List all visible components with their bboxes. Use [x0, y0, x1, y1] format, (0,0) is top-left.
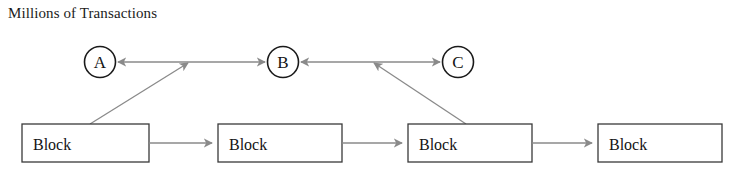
diagram-canvas: A B C Block Block	[0, 0, 729, 176]
block-3: Block	[408, 124, 532, 162]
block-2-label: Block	[229, 136, 267, 153]
node-a: A	[85, 47, 116, 78]
block-chain-row: Block Block Block Block	[22, 124, 722, 162]
block-3-label: Block	[419, 136, 457, 153]
block-1-label: Block	[33, 136, 71, 153]
block-2: Block	[218, 124, 342, 162]
block-4: Block	[598, 124, 722, 162]
node-a-label: A	[94, 53, 107, 72]
node-c-label: C	[452, 53, 463, 72]
node-b: B	[268, 47, 299, 78]
node-c: C	[443, 47, 474, 78]
block-1: Block	[22, 124, 149, 162]
transaction-flow-diagram: Millions of Transactions A	[0, 0, 729, 176]
block-4-label: Block	[609, 136, 647, 153]
node-b-label: B	[277, 53, 288, 72]
